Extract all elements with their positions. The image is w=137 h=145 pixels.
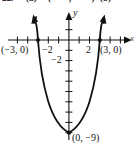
x-axis [8, 37, 132, 44]
y-tick-label-negative-2: −2 [51, 54, 62, 65]
point-x-intercept-left [36, 38, 40, 42]
point-vertex [67, 131, 71, 135]
right-arm-arrowhead [100, 15, 107, 25]
label-vertex: (0, −9) [72, 132, 99, 143]
label-x-intercept-left: (−3, 0) [1, 44, 28, 55]
label-x-intercept-right: (3, 0) [100, 44, 122, 55]
y-axis-label: y [73, 7, 77, 18]
left-arm-arrowhead [31, 15, 38, 25]
parabola-figure: 22. (a) (——, ——) (b) [0, 0, 137, 145]
point-x-intercept-right [98, 38, 102, 42]
x-tick-label-positive-2: 2 [86, 44, 91, 55]
y-axis [65, 12, 72, 140]
coordinate-plane [0, 0, 137, 145]
x-axis-label: x [130, 33, 134, 43]
